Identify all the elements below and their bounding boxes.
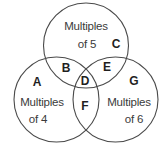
region-label-f: F (81, 99, 88, 113)
region-label-e: E (103, 60, 111, 74)
set-label-four-line2: of 4 (29, 113, 48, 125)
region-label-c: C (112, 37, 121, 51)
set-label-six-line1: Multiples (107, 96, 151, 108)
set-label-six-line2: of 6 (125, 113, 143, 125)
set-label-five-line1: Multiples (64, 20, 108, 32)
set-label-four-line1: Multiples (20, 96, 64, 108)
set-label-five-line2: of 5 (78, 38, 96, 50)
region-label-a: A (33, 75, 42, 89)
region-label-b: B (62, 61, 71, 75)
region-label-d: D (81, 74, 90, 88)
region-label-g: G (129, 74, 138, 88)
venn-diagram: Multiples of 5 Multiples of 4 Multiples … (0, 0, 164, 150)
